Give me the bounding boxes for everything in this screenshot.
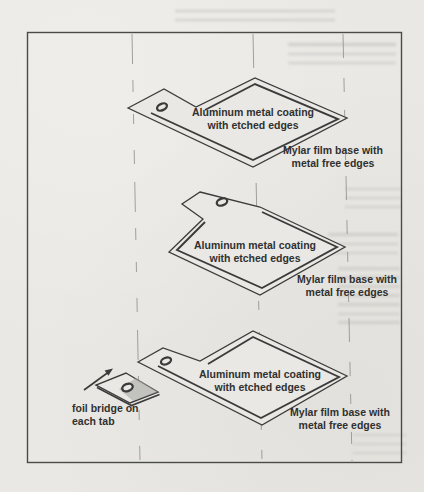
coating-label-line1: Aluminum metal coating xyxy=(170,106,336,119)
base-label-line1: Mylar film base with xyxy=(277,273,417,286)
scanned-page: Aluminum metal coating with etched edges… xyxy=(0,0,424,492)
base-label-line2: metal free edges xyxy=(263,157,403,170)
foil-bridge-label-line2: each tab xyxy=(72,415,172,428)
base-label-middle: Mylar film base with metal free edges xyxy=(277,273,417,298)
coating-label-line2: with etched edges xyxy=(172,252,338,265)
base-label-line1: Mylar film base with xyxy=(263,144,403,157)
base-label-line2: metal free edges xyxy=(277,286,417,299)
coating-label-line2: with etched edges xyxy=(170,119,336,132)
foil-bridge xyxy=(84,369,160,406)
coating-label-line2: with etched edges xyxy=(177,381,343,394)
base-label-line1: Mylar film base with xyxy=(270,406,410,419)
foil-bridge-label-line1: foil bridge on xyxy=(72,402,172,415)
coating-label-bottom: Aluminum metal coating with etched edges xyxy=(177,368,343,393)
coating-label-line1: Aluminum metal coating xyxy=(177,368,343,381)
coating-label-middle: Aluminum metal coating with etched edges xyxy=(172,239,338,264)
coating-label-line1: Aluminum metal coating xyxy=(172,239,338,252)
base-label-line2: metal free edges xyxy=(270,419,410,432)
coating-label-top: Aluminum metal coating with etched edges xyxy=(170,106,336,131)
foil-bridge-label: foil bridge on each tab xyxy=(72,402,172,427)
base-label-bottom: Mylar film base with metal free edges xyxy=(270,406,410,431)
base-label-top: Mylar film base with metal free edges xyxy=(263,144,403,169)
